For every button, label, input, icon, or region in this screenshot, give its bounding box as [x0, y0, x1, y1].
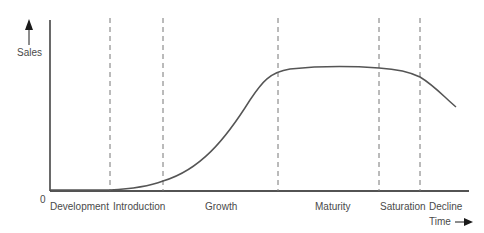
- y-axis-label: Sales: [17, 47, 42, 58]
- stage-label-introduction: Introduction: [113, 201, 165, 212]
- x-axis-arrow-head-icon: [464, 218, 473, 226]
- stage-label-growth: Growth: [205, 201, 237, 212]
- y-axis-arrow-head-icon: [25, 19, 33, 30]
- stage-dividers: [110, 18, 420, 191]
- stage-label-development: Development: [50, 201, 109, 212]
- stage-label-decline: Decline: [429, 201, 462, 212]
- origin-label: 0: [40, 194, 46, 205]
- x-axis-label: Time: [429, 216, 451, 227]
- stage-label-saturation: Saturation: [380, 201, 426, 212]
- sales-curve: [50, 67, 456, 190]
- stage-label-maturity: Maturity: [315, 201, 351, 212]
- product-life-cycle-diagram: [0, 0, 484, 233]
